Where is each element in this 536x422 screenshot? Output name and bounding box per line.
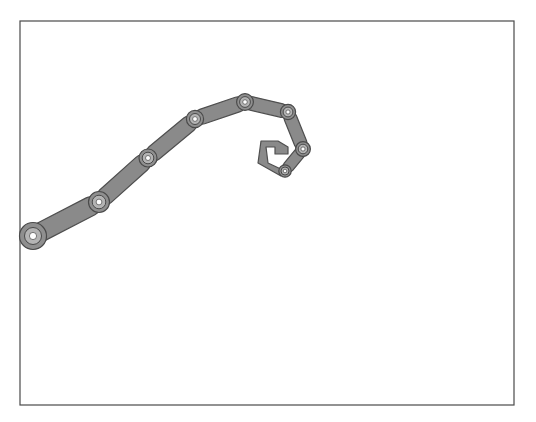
joint-3-pivot xyxy=(186,110,203,127)
robot-arm-viewport xyxy=(0,0,536,422)
joint-7-wrist-pivot xyxy=(279,165,291,177)
joint-base-pivot xyxy=(20,223,47,250)
joint-5-pivot xyxy=(280,104,295,119)
joint-4-apex-pivot xyxy=(237,94,254,111)
scene-canvas xyxy=(0,0,536,422)
joint-1-pivot xyxy=(89,192,110,213)
joint-6-pivot xyxy=(296,142,311,157)
joint-2-pivot xyxy=(139,149,157,167)
